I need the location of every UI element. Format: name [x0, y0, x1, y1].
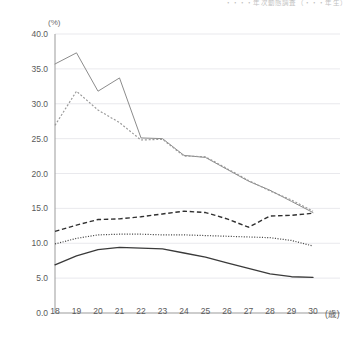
x-tick-label: 29	[281, 306, 303, 316]
x-tick-label: 22	[130, 306, 152, 316]
x-tick-label: 19	[66, 306, 88, 316]
y-tick-label: 5.0	[18, 273, 48, 283]
data-series-series-1-solid-gray	[55, 53, 313, 213]
data-series-series-3-dashed-dark	[55, 211, 313, 231]
x-tick-label: 20	[87, 306, 109, 316]
data-series-series-2-dotted-gray	[55, 91, 313, 211]
x-tick-label: 25	[195, 306, 217, 316]
y-axis-unit-label: (%)	[48, 18, 60, 27]
y-tick-label: 30.0	[18, 99, 48, 109]
x-tick-label: 26	[216, 306, 238, 316]
chart-figure: ・・・・年次動態調査（・・・年生） (%) 0.05.010.015.020.0…	[0, 0, 353, 342]
y-tick-label: 10.0	[18, 238, 48, 248]
x-tick-label: 18	[44, 306, 66, 316]
y-tick-label: 20.0	[18, 169, 48, 179]
data-series-series-4-fine-dotted-dark	[55, 234, 313, 246]
x-tick-label: 21	[109, 306, 131, 316]
y-axis-tick-labels: 0.05.010.015.020.025.030.035.040.0	[0, 0, 48, 342]
x-tick-label: 23	[152, 306, 174, 316]
x-axis-unit-label: (歳)	[325, 307, 340, 319]
x-tick-label: 28	[259, 306, 281, 316]
y-tick-label: 15.0	[18, 203, 48, 213]
y-tick-label: 25.0	[18, 134, 48, 144]
y-tick-label: 35.0	[18, 64, 48, 74]
plot-canvas	[0, 0, 353, 342]
x-tick-label: 24	[173, 306, 195, 316]
y-tick-label: 40.0	[18, 29, 48, 39]
series-layer	[55, 53, 313, 278]
data-series-series-5-solid-dark	[55, 247, 313, 277]
x-tick-label: 27	[238, 306, 260, 316]
x-tick-label: 30	[302, 306, 324, 316]
clipped-source-note: ・・・・年次動態調査（・・・年生）	[225, 0, 347, 6]
